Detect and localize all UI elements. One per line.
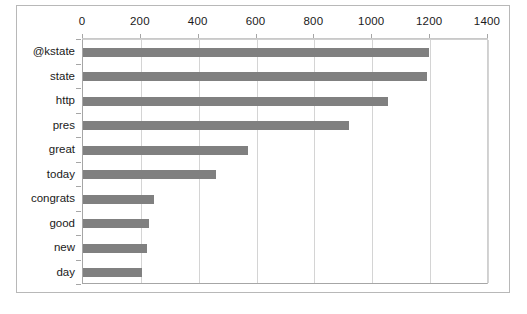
y-axis-category-label: new	[54, 241, 75, 253]
bar-row	[83, 65, 487, 90]
bar[interactable]	[83, 219, 149, 228]
bar-series-layer	[83, 40, 487, 283]
x-axis-tick-label: 1200	[416, 15, 442, 27]
bar[interactable]	[83, 268, 142, 277]
x-axis-tick-label: 0	[79, 15, 86, 27]
bar-row	[83, 187, 487, 212]
x-axis-tick-label: 1400	[474, 15, 500, 27]
y-axis-category-label: http	[56, 94, 75, 106]
y-axis-tick-mark	[76, 211, 81, 212]
y-axis-category-label: today	[47, 168, 75, 180]
y-axis-category-label: good	[49, 217, 75, 229]
bar-row	[83, 261, 487, 286]
y-axis-category-label: great	[49, 143, 75, 155]
y-axis-category-label: day	[56, 266, 75, 278]
y-axis-category-label: congrats	[31, 192, 75, 204]
gridline	[488, 40, 489, 283]
y-axis-tick-mark	[76, 235, 81, 236]
bar-row	[83, 212, 487, 237]
bar-row	[83, 138, 487, 163]
bar-row	[83, 40, 487, 65]
x-axis-tick-label: 400	[188, 15, 208, 27]
plot-area	[82, 39, 488, 284]
y-axis-category-label: @kstate	[33, 45, 75, 57]
bar[interactable]	[83, 195, 154, 204]
x-axis-tick-label: 1000	[358, 15, 384, 27]
y-axis-category-label-column: @kstatestatehttppresgreattodaycongratsgo…	[17, 39, 80, 284]
x-axis-tick-label-row: 0200400600800100012001400	[17, 6, 511, 39]
bar[interactable]	[83, 121, 349, 130]
y-axis-tick-mark	[76, 88, 81, 89]
y-axis-tick-mark	[76, 137, 81, 138]
bar[interactable]	[83, 170, 216, 179]
bar[interactable]	[83, 97, 388, 106]
y-axis-tick-mark	[76, 113, 81, 114]
bar-row	[83, 163, 487, 188]
bar[interactable]	[83, 146, 248, 155]
bar-row	[83, 114, 487, 139]
x-axis-tick-label: 200	[130, 15, 150, 27]
bar-row	[83, 236, 487, 261]
y-axis-category-label: pres	[53, 119, 75, 131]
chart-frame: 0200400600800100012001400 @kstatestateht…	[16, 5, 510, 293]
bar-row	[83, 89, 487, 114]
x-axis-tick-label: 600	[246, 15, 266, 27]
bar[interactable]	[83, 48, 429, 57]
y-axis-tick-mark	[76, 284, 81, 285]
y-axis-tick-mark	[76, 162, 81, 163]
x-axis-tick-label: 800	[304, 15, 324, 27]
bar[interactable]	[83, 244, 147, 253]
y-axis-tick-mark	[76, 64, 81, 65]
y-axis-category-label: state	[50, 70, 75, 82]
y-axis-tick-mark	[76, 39, 81, 40]
y-axis-tick-mark	[76, 186, 81, 187]
y-axis-tick-mark	[76, 260, 81, 261]
bar[interactable]	[83, 72, 427, 81]
